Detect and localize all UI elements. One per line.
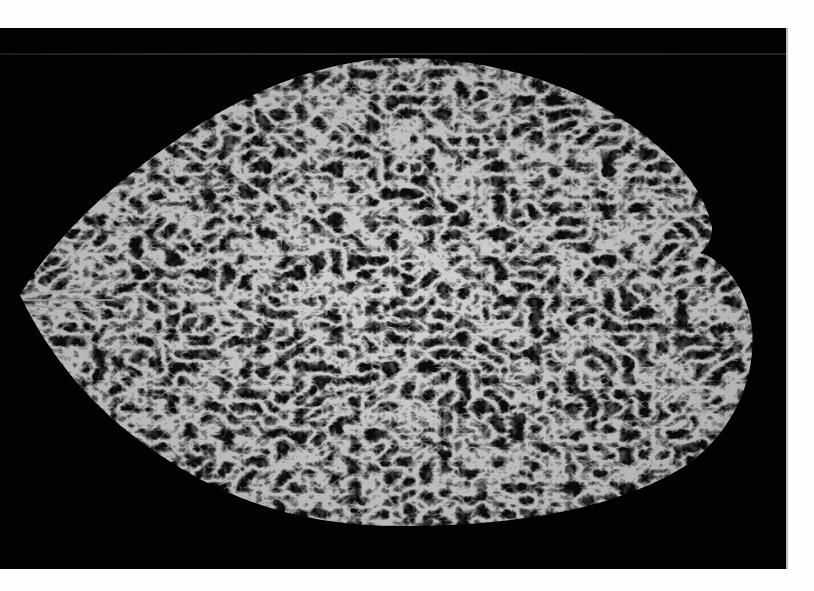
textured-leaf-image [0, 28, 786, 569]
panel-edge [786, 28, 788, 569]
leaf-body [0, 28, 786, 569]
photo-panel [0, 28, 786, 569]
